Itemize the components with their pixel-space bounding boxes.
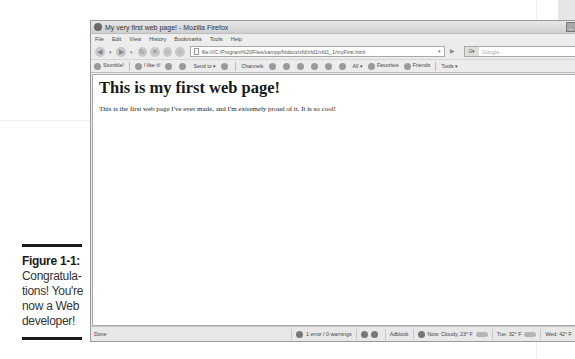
- channel-icon-5[interactable]: [325, 63, 332, 70]
- back-button[interactable]: ◀: [95, 47, 105, 57]
- page-paragraph: This is the first web page I've ever mad…: [99, 105, 575, 113]
- menu-bar: File Edit View History Bookmarks Tools H…: [91, 34, 575, 44]
- thumbs-down-icon[interactable]: [165, 63, 172, 70]
- url-text: file:///C:/Program%20Files/xampp/htdocs/…: [202, 49, 366, 55]
- toolbar-separator: [235, 62, 236, 71]
- menu-help[interactable]: Help: [231, 36, 242, 42]
- figure-caption: Figure 1-1: Congratula-tions! You're now…: [22, 244, 84, 340]
- page-icon: [194, 48, 199, 55]
- error-icon: [296, 331, 303, 338]
- weather-tue[interactable]: Tue: 32° F: [492, 329, 541, 340]
- tools-button[interactable]: Tools ▾: [441, 63, 458, 69]
- tools-icon[interactable]: [179, 63, 186, 70]
- i-like-it-button[interactable]: I like it!: [135, 62, 160, 69]
- title-bar: My very first web page! - Mozilla Firefo…: [91, 21, 575, 34]
- home-button[interactable]: ⌂: [163, 47, 173, 57]
- all-button[interactable]: All ▾: [353, 63, 363, 69]
- menu-view[interactable]: View: [129, 36, 141, 42]
- thumbs-up-icon: [135, 63, 142, 70]
- url-dropdown-icon[interactable]: ▾: [436, 48, 443, 55]
- window-title: My very first web page! - Mozilla Firefo…: [105, 24, 228, 31]
- search-input[interactable]: G▾ Google: [464, 46, 575, 57]
- forward-button[interactable]: ▶: [116, 47, 126, 57]
- status-icon-2[interactable]: [371, 331, 378, 338]
- caption-rule-bottom: [22, 337, 82, 340]
- cloud-icon: [524, 332, 536, 337]
- stop-button[interactable]: ✕: [150, 47, 160, 57]
- minimize-button[interactable]: _: [566, 22, 575, 32]
- error-console-status[interactable]: 1 error / 0 warnings: [291, 329, 356, 340]
- favorites-button[interactable]: Favorites: [368, 62, 399, 69]
- friends-icon: [404, 63, 411, 70]
- status-text: Done: [91, 331, 291, 337]
- caption-title: Figure 1-1:: [22, 254, 84, 269]
- send-to-button[interactable]: Send to ▾: [193, 63, 216, 69]
- menu-bookmarks[interactable]: Bookmarks: [174, 36, 202, 42]
- reload-button[interactable]: ↻: [138, 47, 148, 57]
- window-controls: _ □ ✕: [566, 22, 575, 32]
- weather-globe-icon: [418, 331, 425, 338]
- menu-file[interactable]: File: [95, 36, 104, 42]
- page-viewport: This is my first web page! This is the f…: [92, 74, 575, 326]
- search-engine-selector[interactable]: G▾: [465, 47, 479, 56]
- caption-body: Congratula-tions! You're now a Web devel…: [22, 269, 84, 329]
- extensions-toolbar: Stumble! I like it! Send to ▾ Channels A…: [91, 60, 575, 73]
- menu-edit[interactable]: Edit: [112, 36, 121, 42]
- navigation-toolbar: ◀ ▾ ▶ ▾ ↻ ✕ ⌂ ☆ file:///C:/Program%20Fil…: [91, 44, 575, 60]
- toolbar-separator: [435, 62, 436, 71]
- browser-window: My very first web page! - Mozilla Firefo…: [90, 20, 575, 342]
- back-dropdown-icon[interactable]: ▾: [108, 47, 114, 57]
- stumbleupon-icon: [94, 63, 101, 70]
- channel-icon-2[interactable]: [283, 63, 290, 70]
- channel-icon-3[interactable]: [297, 63, 304, 70]
- address-bar[interactable]: file:///C:/Program%20Files/xampp/htdocs/…: [190, 46, 446, 57]
- status-bar: Done 1 error / 0 warnings Adblock Now: C…: [91, 326, 575, 341]
- weather-wed[interactable]: Wed: 42° F: [540, 329, 575, 340]
- favorites-icon: [368, 63, 375, 70]
- firefox-icon: [94, 23, 102, 31]
- comment-icon[interactable]: [221, 63, 228, 70]
- status-icon-1[interactable]: [361, 331, 368, 338]
- go-button[interactable]: ▶: [448, 47, 457, 56]
- friends-button[interactable]: Friends: [404, 62, 431, 69]
- channel-icon-1[interactable]: [269, 63, 276, 70]
- caption-rule-top: [22, 244, 82, 247]
- menu-tools[interactable]: Tools: [210, 36, 223, 42]
- toolbar-separator: [129, 62, 130, 71]
- cloud-icon: [476, 332, 488, 337]
- search-placeholder: Google: [482, 49, 499, 55]
- weather-now[interactable]: Now: Cloudy, 23° F: [413, 329, 492, 340]
- stumble-button[interactable]: Stumble!: [94, 62, 124, 69]
- bookmark-icon[interactable]: ☆: [175, 47, 185, 57]
- channels-button[interactable]: Channels: [241, 63, 263, 69]
- channel-icon-4[interactable]: [311, 63, 318, 70]
- channel-icon-6[interactable]: [339, 63, 346, 70]
- page-heading: This is my first web page!: [99, 78, 575, 98]
- menu-history[interactable]: History: [149, 36, 166, 42]
- status-icons: [356, 329, 385, 340]
- adblock-status[interactable]: Adblock: [385, 329, 413, 340]
- forward-dropdown-icon[interactable]: ▾: [129, 47, 135, 57]
